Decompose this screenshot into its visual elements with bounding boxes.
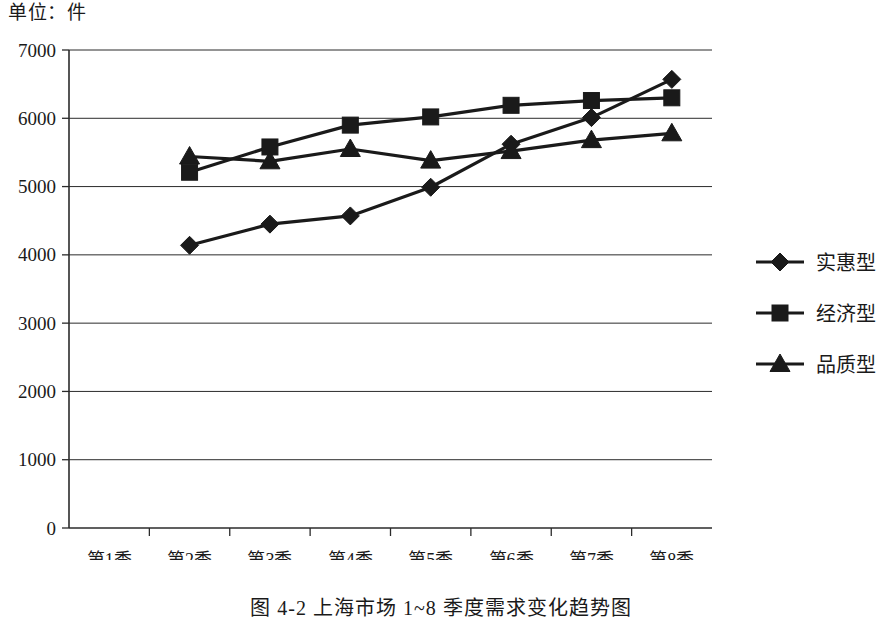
data-point-marker <box>341 207 359 225</box>
x-axis-category-label: 第1季 <box>87 550 132 560</box>
x-axis-category-label: 第3季 <box>247 550 292 560</box>
legend-marker-square <box>772 305 788 321</box>
x-axis-category-label: 第4季 <box>328 550 373 560</box>
y-axis-tick-label: 4000 <box>18 244 56 265</box>
series-triangle <box>180 123 682 168</box>
legend-label: 品质型 <box>816 354 876 376</box>
data-point-marker <box>662 123 682 141</box>
legend-marker-diamond <box>771 253 789 271</box>
x-axis-category-label: 第6季 <box>489 550 534 560</box>
figure-container: 单位：件 01000200030004000500060007000第1季第2季… <box>0 0 882 617</box>
legend-item[interactable]: 品质型 <box>756 354 876 376</box>
data-point-marker <box>503 97 519 113</box>
line-chart: 01000200030004000500060007000第1季第2季第3季第4… <box>0 0 882 560</box>
data-point-marker <box>342 117 358 133</box>
data-point-marker <box>340 139 360 157</box>
data-point-marker <box>664 90 680 106</box>
legend-item[interactable]: 实惠型 <box>756 252 876 274</box>
data-point-marker <box>261 215 279 233</box>
x-axis-category-label: 第5季 <box>408 550 453 560</box>
data-point-marker <box>423 109 439 125</box>
data-point-marker <box>180 147 200 165</box>
x-axis-category-label: 第8季 <box>649 550 694 560</box>
data-point-marker <box>583 93 599 109</box>
legend-label: 实惠型 <box>816 252 876 274</box>
y-axis-tick-label: 5000 <box>18 176 56 197</box>
y-axis-tick-label: 6000 <box>18 108 56 129</box>
legend-item[interactable]: 经济型 <box>756 303 876 325</box>
legend-label: 经济型 <box>816 303 876 325</box>
y-axis-tick-label: 1000 <box>18 449 56 470</box>
y-axis-tick-label: 3000 <box>18 313 56 334</box>
chart-plot-area: 01000200030004000500060007000第1季第2季第3季第4… <box>0 0 882 560</box>
data-point-marker <box>182 164 198 180</box>
figure-caption: 图 4-2 上海市场 1~8 季度需求变化趋势图 <box>0 596 882 617</box>
data-point-marker <box>181 236 199 254</box>
data-point-marker <box>663 70 681 88</box>
y-axis-tick-label: 2000 <box>18 381 56 402</box>
x-axis-category-label: 第7季 <box>569 550 614 560</box>
data-point-marker <box>582 109 600 127</box>
y-axis-tick-label: 7000 <box>18 40 56 61</box>
x-axis-category-label: 第2季 <box>167 550 212 560</box>
y-axis-tick-label: 0 <box>47 518 57 539</box>
data-point-marker <box>422 178 440 196</box>
